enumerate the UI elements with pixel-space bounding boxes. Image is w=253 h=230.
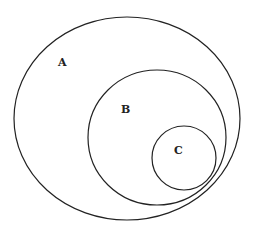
set-a-label: A	[57, 56, 67, 69]
set-c-circle	[152, 126, 216, 190]
set-b-ellipse	[88, 70, 226, 205]
venn-diagram: A B C	[0, 0, 253, 230]
set-a-ellipse	[14, 17, 240, 220]
set-c-label: C	[174, 144, 183, 157]
set-b-label: B	[121, 103, 130, 116]
